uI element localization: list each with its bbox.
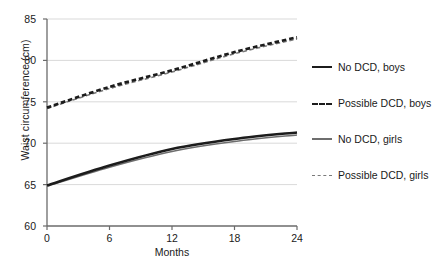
legend-item-no-dcd-boys: No DCD, boys [312, 58, 433, 76]
x-tick-label-18: 18 [220, 233, 250, 244]
gridlines [47, 19, 297, 185]
x-tick-label-0: 0 [32, 233, 62, 244]
x-tick-label-6: 6 [95, 233, 125, 244]
y-tick-label-60: 60 [8, 221, 36, 232]
series-line-no-dcd-boys [47, 132, 297, 185]
legend-swatch-solid-thin-icon [312, 134, 332, 144]
legend-item-possible-dcd-boys: Possible DCD, boys [312, 94, 433, 112]
y-tick-label-75: 75 [8, 97, 36, 108]
y-tick-label-65: 65 [8, 180, 36, 191]
chart-legend: No DCD, boys Possible DCD, boys No DCD, … [312, 58, 433, 202]
legend-label: Possible DCD, boys [338, 97, 431, 109]
y-tick-label-70: 70 [8, 138, 36, 149]
legend-swatch-dashed-thick-icon [312, 98, 332, 108]
legend-label: No DCD, boys [338, 61, 405, 73]
chart-figure: Waist circumference (cm) 85 80 75 70 65 … [0, 0, 433, 268]
x-tick-label-24: 24 [282, 233, 312, 244]
x-tick-label-12: 12 [157, 233, 187, 244]
x-axis-title: Months [47, 246, 297, 258]
y-tick-label-80: 80 [8, 55, 36, 66]
series-line-no-dcd-girls [47, 135, 297, 186]
series-line-possible-dcd-girls [47, 39, 297, 109]
legend-swatch-dashed-thin-icon [312, 170, 332, 180]
legend-item-possible-dcd-girls: Possible DCD, girls [312, 166, 433, 184]
legend-item-no-dcd-girls: No DCD, girls [312, 130, 433, 148]
legend-label: Possible DCD, girls [338, 169, 428, 181]
y-tick-label-85: 85 [8, 14, 36, 25]
legend-label: No DCD, girls [338, 133, 402, 145]
legend-swatch-solid-thick-icon [312, 62, 332, 72]
